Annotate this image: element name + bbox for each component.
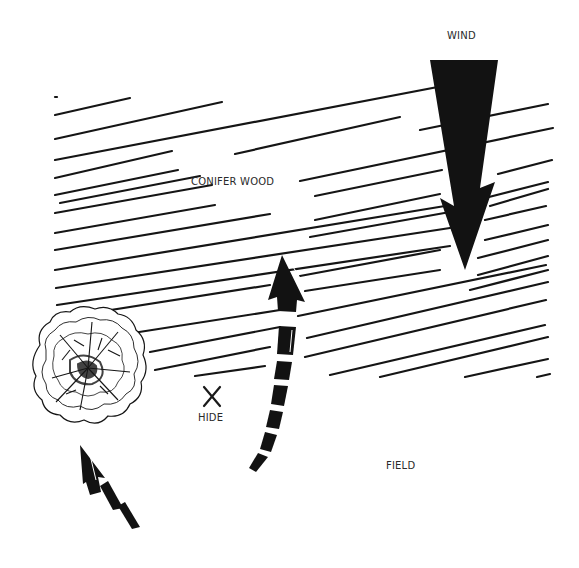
conifer-wood-label: CONIFER WOOD — [191, 176, 274, 187]
tree-icon — [33, 307, 146, 424]
wind-label: WIND — [447, 30, 476, 41]
field-label: FIELD — [386, 460, 415, 471]
hunting-hide-diagram — [0, 0, 579, 568]
hide-label: HIDE — [198, 412, 223, 423]
